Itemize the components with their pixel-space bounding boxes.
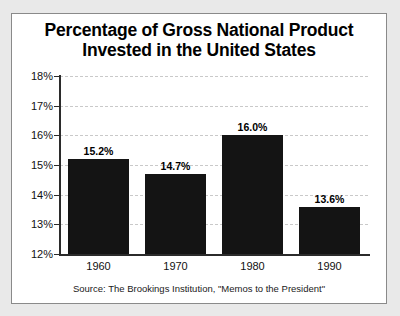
- y-tick-label: 17%: [15, 100, 53, 112]
- y-axis-labels: 18%17%16%15%14%13%12%: [12, 14, 53, 305]
- bar-group[interactable]: 14.7%: [145, 76, 207, 254]
- bar[interactable]: [222, 135, 284, 254]
- bar[interactable]: [68, 159, 130, 254]
- x-tick-label: 1980: [240, 260, 264, 272]
- chart-frame: Percentage of Gross National Product Inv…: [11, 13, 387, 304]
- bar-value-label: 14.7%: [161, 160, 191, 172]
- bar-group[interactable]: 13.6%: [299, 76, 361, 254]
- bar-value-label: 15.2%: [84, 145, 114, 157]
- x-tick-label: 1970: [163, 260, 187, 272]
- bar-value-label: 13.6%: [315, 193, 345, 205]
- y-tick-label: 13%: [15, 218, 53, 230]
- y-tick-label: 14%: [15, 189, 53, 201]
- x-tick-label: 1990: [317, 260, 341, 272]
- x-tick-label: 1960: [86, 260, 110, 272]
- bar-value-label: 16.0%: [238, 121, 268, 133]
- plot-wrapper: 18%17%16%15%14%13%12% 15.2%14.7%16.0%13.…: [12, 14, 388, 305]
- y-tick-label: 15%: [15, 159, 53, 171]
- plot-area: 15.2%14.7%16.0%13.6%: [60, 76, 368, 254]
- bar-group[interactable]: 15.2%: [68, 76, 130, 254]
- bar[interactable]: [299, 207, 361, 254]
- x-axis-line: [59, 254, 370, 256]
- y-tick-label: 16%: [15, 129, 53, 141]
- y-tick-label: 18%: [15, 70, 53, 82]
- y-tick-label: 12%: [15, 248, 53, 260]
- source-note: Source: The Brookings Institution, "Memo…: [12, 283, 386, 294]
- bar[interactable]: [145, 174, 207, 254]
- bar-group[interactable]: 16.0%: [222, 76, 284, 254]
